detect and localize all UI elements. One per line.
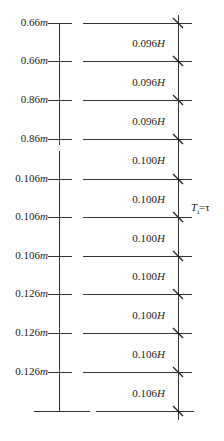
level-height-label: 0.106m [15, 249, 48, 261]
interval-force-label: 0.106H [132, 387, 165, 399]
interval-force-label: 0.096H [132, 115, 165, 127]
slash-tick-icon [171, 16, 185, 30]
level-line-left [48, 23, 72, 24]
level-line-left [48, 61, 72, 62]
slash-tick-icon [171, 249, 185, 263]
side-label-rest: =τ [199, 201, 210, 213]
slash-tick-icon [171, 404, 185, 418]
level-line-left [34, 411, 90, 412]
level-line-left [48, 179, 72, 180]
level-height-label: 0.126m [15, 287, 48, 299]
interval-force-label: 0.100H [132, 193, 165, 205]
level-height-label: 0.106m [15, 172, 48, 184]
interval-force-label: 0.100H [132, 270, 165, 282]
slash-tick-icon [171, 132, 185, 146]
interval-force-label: 0.100H [132, 309, 165, 321]
side-label-ti-equals-tau: Ti=τ [191, 201, 210, 218]
slash-tick-icon [171, 210, 185, 224]
level-height-label: 0.66m [21, 16, 48, 28]
slash-tick-icon [171, 93, 185, 107]
level-line-left [48, 217, 72, 218]
level-line-left [48, 139, 72, 140]
slash-tick-icon [171, 172, 185, 186]
slash-tick-icon [171, 365, 185, 379]
level-line-left [48, 372, 72, 373]
left-vertical-line-upper [59, 23, 60, 145]
slash-tick-icon [171, 54, 185, 68]
level-height-label: 0.86m [21, 132, 48, 144]
slash-tick-icon [171, 326, 185, 340]
interval-force-label: 0.096H [132, 37, 165, 49]
level-height-label: 0.86m [21, 93, 48, 105]
level-height-label: 0.106m [15, 210, 48, 222]
level-height-label: 0.66m [21, 54, 48, 66]
level-line-left [48, 333, 72, 334]
interval-force-label: 0.100H [132, 232, 165, 244]
level-line-left [48, 100, 72, 101]
interval-force-label: 0.106H [132, 348, 165, 360]
level-line-left [48, 256, 72, 257]
level-height-label: 0.126m [15, 326, 48, 338]
interval-force-label: 0.100H [132, 154, 165, 166]
level-height-label: 0.126m [15, 365, 48, 377]
interval-force-label: 0.096H [132, 76, 165, 88]
level-line-left [48, 294, 72, 295]
slash-tick-icon [171, 287, 185, 301]
